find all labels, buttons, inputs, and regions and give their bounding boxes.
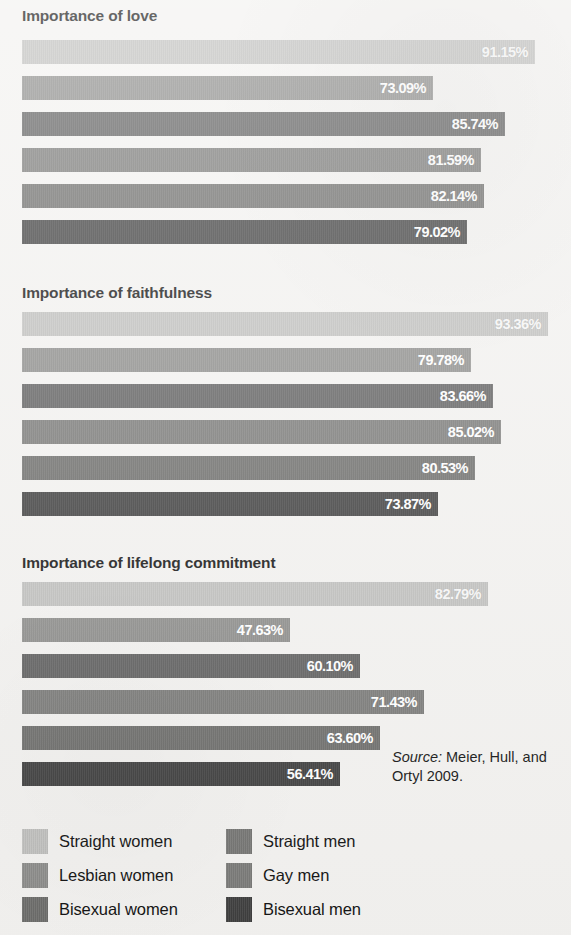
bar-fill bbox=[22, 40, 535, 64]
bar-fill bbox=[22, 420, 501, 444]
bar-row: 85.02% bbox=[22, 420, 501, 444]
legend-label: Lesbian women bbox=[59, 866, 173, 885]
legend-column-right: Straight menGay menBisexual men bbox=[226, 824, 361, 926]
bar-value-label: 71.43% bbox=[371, 690, 417, 714]
bar-value-label: 79.78% bbox=[418, 348, 464, 372]
bar-row: 91.15% bbox=[22, 40, 535, 64]
source-label: Source: bbox=[392, 749, 442, 765]
bar-value-label: 73.87% bbox=[385, 492, 431, 516]
bar-row: 63.60% bbox=[22, 726, 380, 750]
panel-title: Importance of lifelong commitment bbox=[22, 554, 275, 572]
bar-fill bbox=[22, 456, 475, 480]
bar-value-label: 80.53% bbox=[422, 456, 468, 480]
bar-fill bbox=[22, 690, 424, 714]
bar-row: 83.66% bbox=[22, 384, 493, 408]
legend-item[interactable]: Bisexual women bbox=[22, 892, 178, 926]
panel-title: Importance of faithfulness bbox=[22, 284, 212, 302]
bar-fill bbox=[22, 384, 493, 408]
bar-row: 93.36% bbox=[22, 312, 548, 336]
legend-label: Bisexual men bbox=[263, 900, 361, 919]
legend-swatch-icon bbox=[22, 863, 48, 888]
bar-row: 73.87% bbox=[22, 492, 438, 516]
bar-row: 47.63% bbox=[22, 618, 290, 642]
bar-value-label: 93.36% bbox=[495, 312, 541, 336]
legend-label: Bisexual women bbox=[59, 900, 178, 919]
bar-row: 79.02% bbox=[22, 220, 467, 244]
legend-label: Straight men bbox=[263, 832, 355, 851]
bar-row: 60.10% bbox=[22, 654, 360, 678]
bar-fill bbox=[22, 220, 467, 244]
bar-value-label: 47.63% bbox=[237, 618, 283, 642]
bar-row: 71.43% bbox=[22, 690, 424, 714]
legend-swatch-icon bbox=[226, 829, 252, 854]
bar-row: 73.09% bbox=[22, 76, 433, 100]
bar-fill bbox=[22, 348, 471, 372]
bar-value-label: 85.02% bbox=[448, 420, 494, 444]
legend-label: Straight women bbox=[59, 832, 172, 851]
bar-row: 81.59% bbox=[22, 148, 481, 172]
bar-value-label: 63.60% bbox=[327, 726, 373, 750]
bar-fill bbox=[22, 312, 548, 336]
bar-row: 79.78% bbox=[22, 348, 471, 372]
bar-fill bbox=[22, 76, 433, 100]
legend-swatch-icon bbox=[226, 863, 252, 888]
bar-value-label: 82.79% bbox=[435, 582, 481, 606]
legend-label: Gay men bbox=[263, 866, 329, 885]
bar-value-label: 56.41% bbox=[287, 762, 333, 786]
legend-swatch-icon bbox=[22, 829, 48, 854]
legend-item[interactable]: Lesbian women bbox=[22, 858, 178, 892]
source-note: Source: Meier, Hull, and Ortyl 2009. bbox=[392, 748, 562, 786]
bar-row: 82.79% bbox=[22, 582, 488, 606]
bar-value-label: 91.15% bbox=[482, 40, 528, 64]
bar-value-label: 79.02% bbox=[414, 220, 460, 244]
bar-fill bbox=[22, 184, 484, 208]
bar-row: 80.53% bbox=[22, 456, 475, 480]
panel-title: Importance of love bbox=[22, 7, 157, 25]
legend-swatch-icon bbox=[226, 897, 252, 922]
bar-fill bbox=[22, 582, 488, 606]
bar-value-label: 85.74% bbox=[452, 112, 498, 136]
bar-value-label: 82.14% bbox=[431, 184, 477, 208]
bar-value-label: 60.10% bbox=[307, 654, 353, 678]
bar-value-label: 83.66% bbox=[440, 384, 486, 408]
bar-row: 56.41% bbox=[22, 762, 340, 786]
bar-value-label: 81.59% bbox=[428, 148, 474, 172]
legend-item[interactable]: Straight men bbox=[226, 824, 361, 858]
bar-row: 82.14% bbox=[22, 184, 484, 208]
bar-value-label: 73.09% bbox=[380, 76, 426, 100]
bar-fill bbox=[22, 148, 481, 172]
bar-fill bbox=[22, 492, 438, 516]
legend-item[interactable]: Straight women bbox=[22, 824, 178, 858]
legend-column-left: Straight womenLesbian womenBisexual wome… bbox=[22, 824, 178, 926]
legend-item[interactable]: Bisexual men bbox=[226, 892, 361, 926]
bar-row: 85.74% bbox=[22, 112, 505, 136]
legend-item[interactable]: Gay men bbox=[226, 858, 361, 892]
bar-fill bbox=[22, 112, 505, 136]
legend-swatch-icon bbox=[22, 897, 48, 922]
figure-page: Importance of love91.15%73.09%85.74%81.5… bbox=[0, 0, 571, 935]
